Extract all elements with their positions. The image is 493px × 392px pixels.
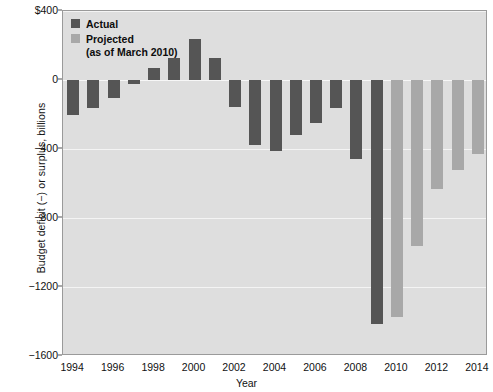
bar-projected-2011	[411, 80, 423, 246]
bar-actual-2002	[229, 80, 241, 107]
bar-actual-2006	[310, 80, 322, 123]
legend-label-actual: Actual	[86, 18, 118, 30]
x-tick-label: 2006	[293, 361, 337, 373]
y-tick-label: $400	[12, 4, 58, 16]
bar-actual-1996	[108, 80, 120, 98]
gridline	[63, 11, 486, 12]
bar-actual-2003	[249, 80, 261, 145]
bar-actual-2000	[189, 39, 201, 80]
gridline	[63, 287, 486, 288]
bar-actual-1998	[148, 68, 160, 80]
x-tick-label: 2004	[253, 361, 297, 373]
bar-actual-1997	[128, 80, 140, 84]
legend-swatch-actual-icon	[71, 19, 80, 28]
legend-item-projected: Projected	[71, 31, 178, 46]
bar-projected-2014	[472, 80, 484, 154]
y-tick-label: 0	[12, 73, 58, 85]
legend-note-projected: (as of March 2010)	[86, 46, 178, 61]
x-tick-label: 2008	[333, 361, 377, 373]
bar-actual-1999	[168, 58, 180, 80]
bar-actual-2009	[371, 80, 383, 324]
bar-projected-2010	[391, 80, 403, 317]
x-tick-label: 1998	[131, 361, 175, 373]
bar-actual-2007	[330, 80, 342, 108]
y-tick-label: −400	[12, 142, 58, 154]
bar-actual-1995	[87, 80, 99, 108]
x-tick-label: 2000	[172, 361, 216, 373]
bar-projected-2013	[452, 80, 464, 170]
y-axis-tick-labels: $4000−400−800−1200−1600	[0, 0, 58, 392]
x-tick-label: 2010	[374, 361, 418, 373]
legend-label-projected: Projected	[86, 33, 134, 45]
x-tick-label: 2002	[212, 361, 256, 373]
bar-actual-2008	[350, 80, 362, 159]
y-tick-label: −800	[12, 211, 58, 223]
legend-item-actual: Actual	[71, 16, 178, 31]
y-tick-label: −1600	[12, 349, 58, 361]
x-tick-label: 1994	[50, 361, 94, 373]
bar-projected-2012	[431, 80, 443, 189]
y-tick-label: −1200	[12, 280, 58, 292]
bar-actual-2001	[209, 58, 221, 80]
x-tick-label: 1996	[91, 361, 135, 373]
x-tick-label: 2012	[414, 361, 458, 373]
bar-actual-1994	[67, 80, 79, 115]
chart-legend: Actual Projected (as of March 2010)	[71, 16, 178, 61]
budget-deficit-bar-chart: Budget deficit (−) or surplus, billions …	[0, 0, 493, 392]
bar-actual-2004	[270, 80, 282, 151]
plot-area: Actual Projected (as of March 2010)	[62, 10, 487, 355]
x-axis-title: Year	[0, 377, 493, 389]
legend-swatch-projected-icon	[71, 34, 80, 43]
bar-actual-2005	[290, 80, 302, 135]
x-tick-label: 2014	[455, 361, 493, 373]
